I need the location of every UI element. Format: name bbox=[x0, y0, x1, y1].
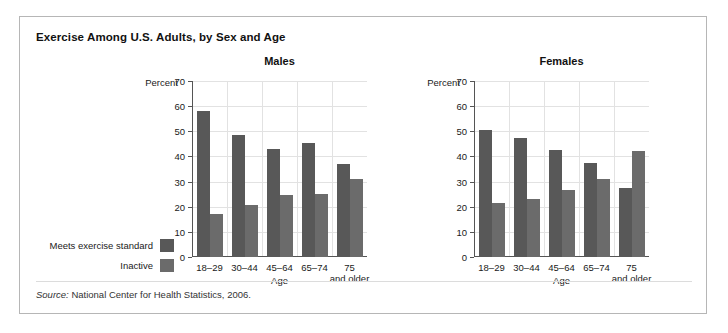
bar bbox=[479, 130, 492, 257]
category-separator-line bbox=[544, 81, 545, 257]
bar bbox=[197, 111, 210, 257]
source-divider bbox=[36, 281, 692, 282]
y-axis-tick bbox=[188, 257, 192, 258]
y-axis-tick-label: 30 bbox=[456, 176, 467, 187]
x-axis-tick-label: 65–74 bbox=[583, 262, 609, 273]
legend-swatch-meets-exercise-standard bbox=[160, 239, 174, 252]
x-axis-tick-label: 45–64 bbox=[266, 262, 292, 273]
legend-swatch-inactive bbox=[160, 259, 174, 272]
category-separator-line bbox=[262, 81, 263, 257]
bar bbox=[280, 195, 293, 257]
y-axis-line bbox=[192, 81, 193, 257]
y-axis-line bbox=[474, 81, 475, 257]
x-axis-tick-label: 30–44 bbox=[231, 262, 257, 273]
source-text: National Center for Health Statistics, 2… bbox=[69, 289, 251, 300]
y-axis-tick-label: 20 bbox=[174, 201, 185, 212]
chart-panel-males: Males Percent 01020304050607018–2930–444… bbox=[130, 55, 430, 285]
bar bbox=[245, 205, 258, 257]
plot-area-males: 01020304050607018–2930–4445–6465–7475and… bbox=[192, 81, 367, 257]
bar bbox=[302, 143, 315, 257]
bar bbox=[632, 151, 645, 257]
gridline bbox=[192, 131, 367, 132]
y-axis-tick-label: 40 bbox=[174, 151, 185, 162]
legend-item-meets-exercise-standard: Meets exercise standard bbox=[34, 239, 174, 252]
panel-title-males: Males bbox=[192, 55, 367, 67]
x-axis-tick-label: 18–29 bbox=[478, 262, 504, 273]
chart-panel-females: Females Percent 01020304050607018–2930–4… bbox=[412, 55, 712, 285]
category-separator-line bbox=[614, 81, 615, 257]
x-axis-tick-label: 30–44 bbox=[513, 262, 539, 273]
source-prefix: Source: bbox=[36, 289, 69, 300]
bar bbox=[549, 150, 562, 257]
gridline bbox=[474, 106, 649, 107]
y-axis-tick-label: 10 bbox=[456, 226, 467, 237]
bar bbox=[562, 190, 575, 257]
source-note: Source: National Center for Health Stati… bbox=[36, 289, 251, 300]
panel-title-females: Females bbox=[474, 55, 649, 67]
y-axis-tick-label: 30 bbox=[174, 176, 185, 187]
chart-legend: Meets exercise standard Inactive bbox=[34, 239, 174, 279]
plot-area-females: 01020304050607018–2930–4445–6465–7475and… bbox=[474, 81, 649, 257]
x-axis-tick-label: 65–74 bbox=[301, 262, 327, 273]
y-axis-tick-label: 70 bbox=[174, 76, 185, 87]
y-axis-tick-label: 60 bbox=[456, 101, 467, 112]
x-axis-tick-label: 45–64 bbox=[548, 262, 574, 273]
bar bbox=[210, 214, 223, 257]
legend-label-inactive: Inactive bbox=[120, 260, 153, 271]
y-axis-tick-label: 50 bbox=[456, 126, 467, 137]
y-axis-tick-label: 10 bbox=[174, 226, 185, 237]
y-axis-tick-label: 40 bbox=[456, 151, 467, 162]
figure-title: Exercise Among U.S. Adults, by Sex and A… bbox=[36, 31, 286, 43]
category-separator-line bbox=[509, 81, 510, 257]
bar bbox=[527, 199, 540, 257]
gridline bbox=[192, 81, 367, 82]
bar bbox=[584, 163, 597, 257]
y-axis-tick-label: 0 bbox=[462, 252, 467, 263]
legend-label-meets-exercise-standard: Meets exercise standard bbox=[50, 240, 154, 251]
x-axis-tick-label: 18–29 bbox=[196, 262, 222, 273]
category-separator-line bbox=[332, 81, 333, 257]
y-axis-tick-label: 70 bbox=[456, 76, 467, 87]
legend-item-inactive: Inactive bbox=[34, 259, 174, 272]
bar bbox=[514, 138, 527, 257]
bar bbox=[619, 188, 632, 257]
y-axis-tick-label: 60 bbox=[174, 101, 185, 112]
y-axis-tick-label: 50 bbox=[174, 126, 185, 137]
gridline bbox=[474, 131, 649, 132]
y-axis-unit-label-females: Percent bbox=[412, 77, 460, 88]
gridline bbox=[474, 81, 649, 82]
category-separator-line bbox=[227, 81, 228, 257]
y-axis-tick-label: 0 bbox=[180, 252, 185, 263]
bar bbox=[232, 135, 245, 257]
category-separator-line bbox=[297, 81, 298, 257]
gridline bbox=[192, 106, 367, 107]
y-axis-tick-label: 20 bbox=[456, 201, 467, 212]
bar bbox=[267, 149, 280, 257]
bar bbox=[315, 194, 328, 257]
y-axis-unit-label-males: Percent bbox=[130, 77, 178, 88]
bar bbox=[597, 179, 610, 257]
bar bbox=[492, 203, 505, 257]
bar bbox=[337, 164, 350, 257]
figure-container: Exercise Among U.S. Adults, by Sex and A… bbox=[19, 16, 707, 314]
y-axis-tick bbox=[470, 257, 474, 258]
bar bbox=[350, 179, 363, 257]
category-separator-line bbox=[579, 81, 580, 257]
